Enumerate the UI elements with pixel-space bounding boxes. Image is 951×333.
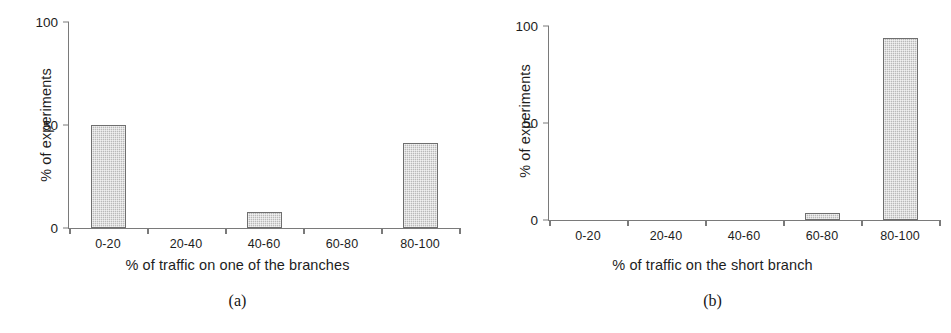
x-tick-mark-a-0 [69, 228, 71, 234]
bar-cell-a-4 [381, 22, 459, 228]
figure-two-panel-bar-charts: % of experiments 100 50 0 [0, 0, 951, 333]
x-tick-label-b-0: 0-20 [549, 229, 627, 243]
x-tick-mark-b-2 [705, 220, 707, 226]
x-tick-label-b-3: 60-80 [783, 229, 861, 243]
x-axis-labels-b: 0-20 20-40 40-60 60-80 80-100 [549, 229, 939, 243]
bar-series-a [69, 22, 459, 228]
y-tick-label-a-100: 100 [35, 15, 63, 30]
y-tick-label-a-0: 0 [50, 221, 63, 236]
y-tick-a-100: 100 [35, 15, 69, 30]
x-tick-label-a-0: 0-20 [69, 237, 147, 251]
x-tick-label-a-4: 80-100 [381, 237, 459, 251]
bar-cell-a-3 [303, 22, 381, 228]
bar-series-b [549, 26, 939, 220]
y-tick-a-50: 50 [43, 118, 69, 133]
x-tick-mark-a-5 [459, 228, 461, 234]
y-tick-b-50: 50 [523, 116, 549, 131]
y-tick-a-0: 0 [50, 221, 69, 236]
x-tick-mark-b-0 [549, 220, 551, 226]
panel-caption-a: (a) [0, 292, 475, 310]
chart-panel-a: % of experiments 100 50 0 [0, 0, 475, 333]
bar-cell-a-1 [147, 22, 225, 228]
chart-panel-b: % of experiments 100 50 0 [475, 0, 950, 333]
y-tick-label-b-0: 0 [530, 213, 543, 228]
x-tick-label-a-1: 20-40 [147, 237, 225, 251]
bar-cell-b-1 [627, 26, 705, 220]
x-tick-label-b-4: 80-100 [861, 229, 939, 243]
y-tick-label-a-50: 50 [43, 118, 63, 133]
y-tick-label-b-100: 100 [515, 19, 543, 34]
bar-cell-b-3 [783, 26, 861, 220]
bar-a-2 [247, 212, 282, 228]
x-tick-mark-a-4 [381, 228, 383, 234]
plot-area-a: 100 50 0 [68, 22, 459, 229]
panel-caption-b: (b) [475, 292, 950, 310]
x-axis-title-b: % of traffic on the short branch [475, 257, 950, 273]
x-tick-label-b-1: 20-40 [627, 229, 705, 243]
x-tick-label-a-3: 60-80 [303, 237, 381, 251]
y-tick-b-0: 0 [530, 213, 549, 228]
x-tick-mark-a-3 [303, 228, 305, 234]
x-tick-mark-b-3 [783, 220, 785, 226]
bar-cell-b-0 [549, 26, 627, 220]
bar-cell-a-0 [69, 22, 147, 228]
bar-a-4 [403, 143, 438, 228]
x-axis-title-a: % of traffic on one of the branches [0, 257, 475, 273]
bar-b-4 [883, 38, 918, 220]
bar-cell-a-2 [225, 22, 303, 228]
y-tick-b-100: 100 [515, 19, 549, 34]
x-axis-labels-a: 0-20 20-40 40-60 60-80 80-100 [69, 237, 459, 251]
plot-area-b: 100 50 0 [548, 26, 939, 221]
bar-cell-b-2 [705, 26, 783, 220]
x-tick-mark-b-5 [939, 220, 941, 226]
x-tick-mark-b-4 [861, 220, 863, 226]
x-tick-label-b-2: 40-60 [705, 229, 783, 243]
bar-b-3 [805, 213, 840, 220]
x-tick-mark-a-1 [147, 228, 149, 234]
y-tick-label-b-50: 50 [523, 116, 543, 131]
x-tick-mark-b-1 [627, 220, 629, 226]
bar-a-0 [91, 125, 126, 228]
x-tick-mark-a-2 [225, 228, 227, 234]
bar-cell-b-4 [861, 26, 939, 220]
x-tick-label-a-2: 40-60 [225, 237, 303, 251]
